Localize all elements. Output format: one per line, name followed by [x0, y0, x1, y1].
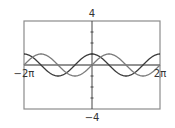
chart: 4 −4 −2π 2π — [0, 0, 175, 128]
y-max-label: 4 — [89, 8, 95, 19]
y-min-label: −4 — [85, 112, 100, 123]
x-min-label: −2π — [14, 68, 35, 79]
x-max-label: 2π — [154, 68, 166, 79]
